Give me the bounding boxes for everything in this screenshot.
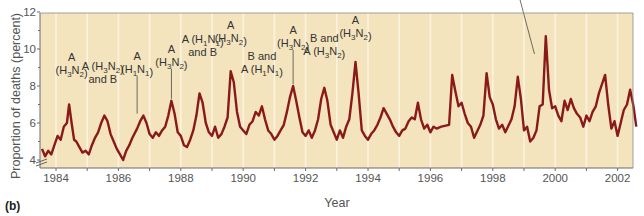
strain-letter: N: [108, 60, 116, 72]
strain-letter: N: [137, 63, 145, 75]
annotation-text: ): [368, 30, 372, 42]
annotation-line: B and: [310, 32, 339, 44]
x-tick-label: 1998: [480, 172, 506, 184]
y-tick-label: 4: [30, 154, 37, 166]
strain-letter: H: [59, 64, 67, 76]
x-tick-label: 1994: [355, 172, 381, 184]
y-axis-title: Proportion of deaths (percent): [9, 13, 23, 179]
x-tick-label: 1986: [106, 172, 132, 184]
annotation-text: A (: [182, 33, 196, 45]
annotation-line: A: [68, 51, 76, 63]
strain-letter: H: [218, 32, 226, 44]
strain-letter: H: [343, 27, 351, 39]
annotation-text: A: [68, 51, 76, 63]
x-tick-label: 1990: [230, 172, 256, 184]
x-tick-label: 1996: [418, 172, 444, 184]
annotation-text: A: [227, 19, 235, 31]
annotation-text: ): [150, 66, 154, 78]
y-tick-label: 8: [30, 80, 36, 92]
strain-letter: N: [231, 32, 239, 44]
annotation-text: ): [243, 35, 247, 47]
annotation-text: A: [352, 14, 360, 26]
annotation-line: A: [352, 14, 360, 26]
strain-letter: N: [356, 27, 364, 39]
strain-letter: N: [72, 64, 80, 76]
annotation-text: ): [279, 66, 283, 78]
influence-mortality-chart: A(H3N2)A (H3N2)and BA(H1N1)A(H3N2)A (H1N…: [0, 0, 644, 216]
annotation-text: B and: [248, 50, 277, 62]
annotation-text: and B: [188, 46, 217, 58]
annotation-text: B and: [310, 32, 339, 44]
annotation-line: A: [133, 50, 141, 62]
y-tick-label: 6: [30, 117, 36, 129]
x-tick-label: 2002: [605, 172, 631, 184]
strain-letter: H: [159, 56, 167, 68]
annotation-text: A (: [241, 63, 255, 75]
annotation-line: B and: [248, 50, 277, 62]
annotation-text: A (: [303, 45, 317, 57]
x-tick-label: 1992: [293, 172, 319, 184]
x-tick-label: 1984: [43, 172, 69, 184]
y-tick-label: 12: [23, 6, 36, 18]
y-tick-label: 10: [23, 43, 36, 55]
annotation-text: A (: [82, 60, 96, 72]
annotation-text: A: [133, 50, 141, 62]
annotation-text: ): [342, 48, 346, 60]
annotation-line: and B: [88, 73, 117, 85]
strain-letter: H: [254, 63, 262, 75]
strain-letter: H: [195, 33, 203, 45]
x-tick-label: 2000: [542, 172, 568, 184]
annotation-text: and B: [88, 73, 117, 85]
annotation-line: and B: [188, 46, 217, 58]
strain-letter: N: [293, 37, 301, 49]
annotation-line: A: [227, 19, 235, 31]
strain-letter: N: [171, 56, 179, 68]
strain-letter: H: [125, 63, 133, 75]
strain-letter: N: [329, 45, 337, 57]
annotation-text: A: [289, 24, 297, 36]
strain-letter: H: [95, 60, 103, 72]
x-tick-label: 1988: [168, 172, 194, 184]
panel-label: (b): [5, 199, 20, 213]
x-axis-title: Year: [324, 196, 349, 210]
annotation-line: A: [289, 24, 297, 36]
annotation-text: A: [168, 43, 176, 55]
annotation-text: ): [184, 59, 188, 71]
strain-letter: H: [281, 37, 289, 49]
strain-letter: N: [267, 63, 275, 75]
strain-letter: H: [317, 45, 325, 57]
annotation-line: A: [168, 43, 176, 55]
